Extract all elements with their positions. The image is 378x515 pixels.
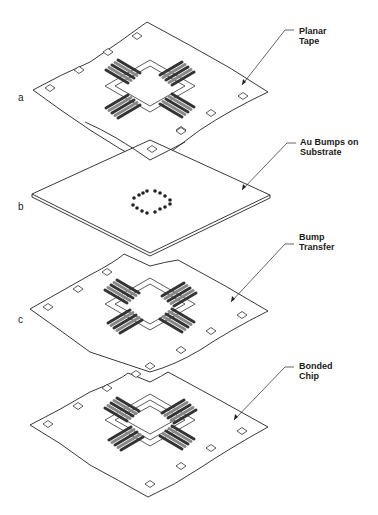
layer-letter-c: c (18, 314, 23, 325)
label-bump-transfer: Bump Transfer (299, 232, 335, 252)
layer-a-planar-tape (33, 22, 294, 165)
layer-c-bump-transfer (30, 244, 294, 372)
layer-d-bonded-chip (30, 367, 294, 497)
diagram-canvas (0, 0, 378, 515)
label-bonded-chip: Bonded Chip (299, 361, 333, 381)
layer-letter-a: a (18, 92, 24, 103)
label-planar-tape: Planar Tape (299, 26, 327, 46)
layer-letter-b: b (18, 201, 24, 212)
label-au-bumps: Au Bumps on Substrate (300, 137, 359, 157)
